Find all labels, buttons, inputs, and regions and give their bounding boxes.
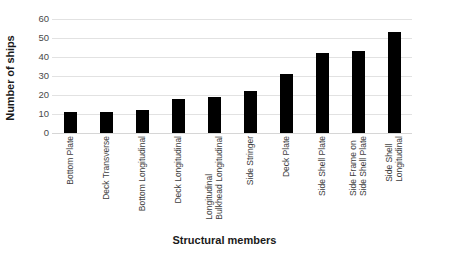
x-label-slot: Side Shell Plate [304,134,340,226]
x-axis-label: Side Stringer [245,136,255,185]
x-axis-label-line: Bottom Longitudinal [137,136,147,211]
x-axis-label: Side Frame onSide Shell Plate [348,136,368,196]
x-axis-label-line: Longitudinal [394,136,404,182]
bar[interactable] [352,51,365,133]
x-axis-label-line: Deck Longitudinal [173,136,183,204]
x-label-slot: Deck Transverse [88,134,124,226]
bar[interactable] [244,91,257,133]
x-axis-label: Deck Longitudinal [173,136,183,204]
x-axis-label: Deck Transverse [101,136,111,200]
x-axis-label: Bottom Longitudinal [137,136,147,211]
x-axis-label-line: Side Shell Plate [317,136,327,196]
x-label-slot: Side Stringer [232,134,268,226]
y-tick-label-30: 30 [0,71,55,81]
x-axis-label-line: Side Shell [384,144,394,182]
x-axis-label-line: Bulkhead Longitudinal [214,136,224,220]
y-tick-label-20: 20 [0,90,55,100]
x-axis-label: Bottom Plate [65,136,75,185]
x-axis-label-line: Side Stringer [245,136,255,185]
x-axis-label-line: Side Shell Plate [358,136,368,196]
x-axis-label-line: Deck Transverse [101,136,111,200]
x-label-slot: LongitudinalBulkhead Longitudinal [196,134,232,226]
x-axis-title: Structural members [0,234,449,246]
y-tick-label-40: 40 [0,52,55,62]
y-axis-tick-labels: 0102030405060 [0,0,49,257]
x-axis-category-labels: Bottom PlateDeck TransverseBottom Longit… [52,134,412,226]
x-axis-label-line: Deck Plate [281,136,291,177]
bar[interactable] [280,74,293,133]
x-axis-label-line: Side Frame on [348,140,358,196]
x-axis-label: Side Shell Plate [317,136,327,196]
y-tick-label-0: 0 [0,128,55,138]
x-label-slot: Side Frame onSide Shell Plate [340,134,376,226]
x-axis-label-line: Longitudinal [204,174,214,220]
bar[interactable] [100,112,113,133]
x-label-slot: Deck Plate [268,134,304,226]
y-tick-label-10: 10 [0,109,55,119]
gridline-50 [52,38,412,39]
x-axis-label: Deck Plate [281,136,291,177]
bar[interactable] [64,112,77,133]
y-tick-label-60: 60 [0,14,55,24]
bar-chart-figure: Number of ships 0102030405060 Bottom Pla… [0,0,449,257]
x-axis-label: Side ShellLongitudinal [384,136,404,182]
bar[interactable] [136,110,149,133]
x-axis-label-line: Bottom Plate [65,136,75,185]
bar[interactable] [172,99,185,133]
x-label-slot: Side ShellLongitudinal [376,134,412,226]
x-label-slot: Bottom Longitudinal [124,134,160,226]
plot-area [52,19,412,133]
x-axis-label: LongitudinalBulkhead Longitudinal [204,136,224,220]
bar[interactable] [388,32,401,133]
x-label-slot: Bottom Plate [52,134,88,226]
gridline-60 [52,19,412,20]
bar[interactable] [208,97,221,133]
y-tick-label-50: 50 [0,33,55,43]
x-label-slot: Deck Longitudinal [160,134,196,226]
bar[interactable] [316,53,329,133]
